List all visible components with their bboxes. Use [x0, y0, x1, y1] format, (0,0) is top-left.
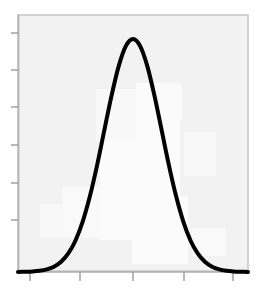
x-axis-ticks	[30, 272, 233, 281]
chart-figure	[0, 0, 263, 293]
y-axis-ticks	[11, 33, 18, 220]
bell-curve-plot	[0, 0, 263, 293]
